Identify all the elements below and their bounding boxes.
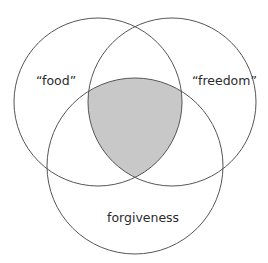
label-food: “food”: [36, 73, 76, 88]
triple-intersection-region: [47, 78, 223, 254]
label-forgiveness: forgiveness: [107, 210, 179, 225]
venn-diagram: “food” “freedom” forgiveness: [0, 0, 268, 263]
label-freedom: “freedom”: [192, 73, 257, 88]
